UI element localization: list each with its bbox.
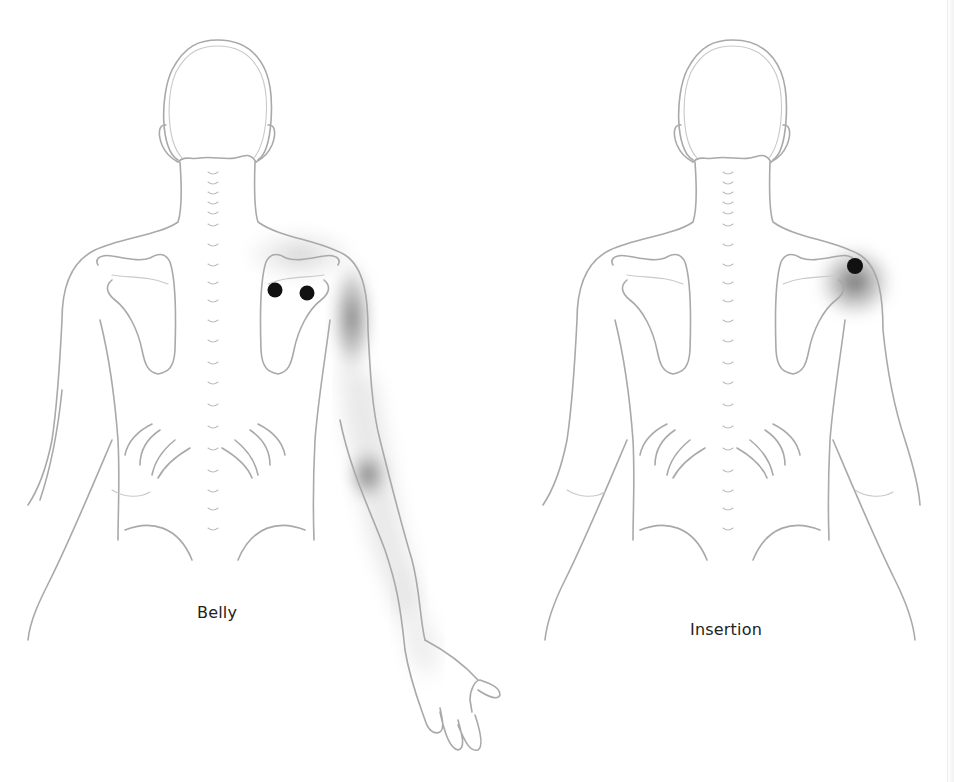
torso-outline	[28, 162, 181, 505]
left-ear	[159, 125, 178, 162]
figure-label-insertion: Insertion	[690, 620, 762, 639]
right-ear	[256, 125, 275, 162]
spine-belly	[208, 172, 218, 530]
head-outline	[164, 40, 272, 160]
spine-insertion	[723, 172, 733, 530]
figure-label-belly: Belly	[197, 603, 237, 622]
trigger-point-diagram: Belly Insertion	[0, 0, 954, 782]
trigger-point-belly-2	[300, 286, 315, 301]
trigger-point-belly-1	[268, 283, 283, 298]
trigger-point-insertion-1	[847, 258, 863, 274]
figure-insertion	[543, 40, 920, 640]
figures-canvas	[0, 0, 954, 782]
page-edge	[947, 0, 954, 782]
figure-belly	[28, 40, 500, 750]
left-scapula	[97, 255, 176, 374]
